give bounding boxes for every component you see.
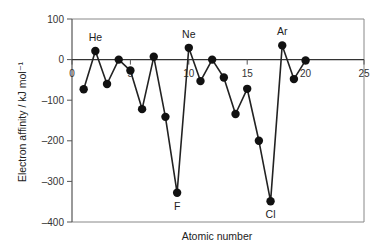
- data-point: [79, 85, 87, 93]
- x-tick-label: 25: [358, 68, 370, 79]
- data-point: [150, 53, 158, 61]
- series-electron-affinity: [79, 41, 309, 205]
- element-label-f: F: [174, 200, 180, 212]
- axes: 1000–100–200–300–4000510152025: [42, 14, 370, 228]
- data-point: [266, 197, 274, 205]
- data-point: [185, 44, 193, 52]
- data-point: [115, 55, 123, 63]
- data-point: [255, 137, 263, 145]
- element-label-ar: Ar: [277, 25, 288, 37]
- data-point: [208, 55, 216, 63]
- data-point: [220, 73, 228, 81]
- x-axis-title: Atomic number: [182, 230, 253, 242]
- y-tick-label: 100: [47, 14, 64, 25]
- data-line: [84, 45, 306, 201]
- data-point: [103, 80, 111, 88]
- data-point: [126, 66, 134, 74]
- data-point: [161, 113, 169, 121]
- chart: 1000–100–200–300–4000510152025 HeNeArFCl…: [0, 0, 385, 252]
- data-point: [173, 189, 181, 197]
- plot-frame: [72, 19, 364, 222]
- data-point: [91, 47, 99, 55]
- data-point: [231, 110, 239, 118]
- element-label-ne: Ne: [182, 28, 196, 40]
- x-tick-label: 10: [183, 68, 195, 79]
- data-point: [196, 77, 204, 85]
- data-point: [243, 85, 251, 93]
- y-tick-label: 0: [58, 54, 64, 65]
- data-point: [290, 75, 298, 83]
- x-tick-label: 15: [242, 68, 254, 79]
- data-point: [138, 105, 146, 113]
- plot-border: [72, 19, 364, 222]
- y-axis-title: Electron affinity / kJ mol⁻¹: [16, 61, 28, 182]
- y-tick-label: –400: [42, 217, 65, 228]
- data-point: [278, 41, 286, 49]
- element-label-cl: Cl: [266, 208, 276, 220]
- y-tick-label: –100: [42, 95, 65, 106]
- x-tick-label: 0: [69, 68, 75, 79]
- y-tick-label: –300: [42, 176, 65, 187]
- y-tick-label: –200: [42, 135, 65, 146]
- element-label-he: He: [89, 31, 103, 43]
- data-point: [301, 56, 309, 64]
- x-tick-label: 20: [300, 68, 312, 79]
